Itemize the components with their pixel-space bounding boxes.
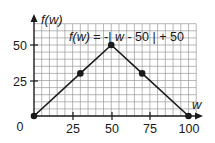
y-tick-50: 50 (13, 39, 27, 53)
data-point (77, 70, 84, 77)
y-axis-arrow-icon (31, 14, 38, 22)
x-tick-25: 25 (66, 122, 80, 136)
y-axis-label: f(w) (41, 12, 63, 27)
data-point (185, 113, 192, 120)
x-axis-label: w (192, 97, 203, 112)
x-tick-75: 75 (143, 122, 157, 136)
equation-label: f(w) = -| w - 50 | + 50 (69, 30, 184, 44)
x-tick-50: 50 (105, 122, 119, 136)
x-tick-100: 100 (179, 122, 200, 136)
x-axis-arrow-icon (195, 113, 203, 120)
y-tick-25: 25 (13, 75, 27, 89)
data-point (139, 70, 146, 77)
origin-label: 0 (17, 120, 24, 134)
chart: f(w) f(w) = -| w - 50 | + 50 w 0 25 50 7… (0, 0, 215, 143)
data-point (31, 113, 38, 120)
